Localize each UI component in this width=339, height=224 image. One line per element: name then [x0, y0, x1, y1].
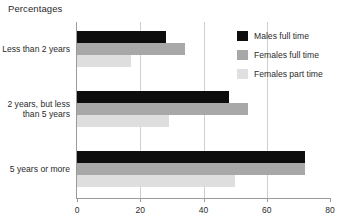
x-axis-tick — [204, 198, 205, 202]
bar — [77, 103, 248, 115]
x-axis-tick — [77, 198, 78, 202]
bar-group — [77, 91, 330, 127]
x-axis-tick-label: 20 — [136, 205, 145, 215]
legend-swatch-icon — [237, 50, 248, 60]
bar — [77, 43, 185, 55]
x-axis-tick — [140, 198, 141, 202]
x-axis-tick-label: 40 — [199, 205, 208, 215]
x-axis-tick-label: 0 — [75, 205, 80, 215]
category-label: 5 years or more — [0, 164, 70, 175]
bar — [77, 115, 169, 127]
x-axis-tick — [330, 198, 331, 202]
x-axis-tick — [267, 198, 268, 202]
x-axis-tick-label: 60 — [262, 205, 271, 215]
bar — [77, 91, 229, 103]
category-label: 2 years, but less than 5 years — [0, 99, 70, 120]
bar — [77, 163, 305, 175]
legend-item: Females part time — [237, 66, 323, 82]
bar — [77, 175, 235, 187]
legend-swatch-icon — [237, 31, 248, 41]
legend-label: Males full time — [254, 31, 309, 41]
bar — [77, 151, 305, 163]
legend-swatch-icon — [237, 69, 248, 79]
chart-title: Percentages — [8, 3, 62, 14]
bar — [77, 31, 166, 43]
legend-label: Females full time — [254, 50, 319, 60]
bar — [77, 55, 131, 67]
legend-item: Males full time — [237, 28, 323, 44]
legend-item: Females full time — [237, 47, 323, 63]
chart-legend: Males full timeFemales full timeFemales … — [237, 28, 323, 85]
x-axis-tick-label: 80 — [325, 205, 334, 215]
category-label: Less than 2 years — [0, 44, 70, 55]
legend-label: Females part time — [254, 69, 323, 79]
bar-chart: Percentages 020406080 Less than 2 years2… — [0, 0, 339, 224]
bar-group — [77, 151, 330, 187]
